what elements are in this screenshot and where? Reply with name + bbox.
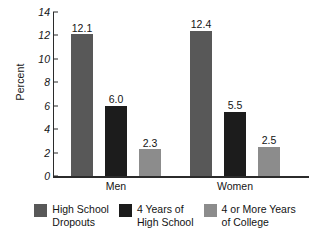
- bar-value-label: 12.4: [191, 19, 211, 30]
- bar: 5.5: [224, 112, 246, 176]
- y-axis-tick-label: 8: [44, 77, 50, 88]
- legend-label: High School Dropouts: [52, 203, 109, 228]
- legend-label: 4 or More Years of College: [222, 203, 296, 228]
- bar: 12.4: [190, 31, 212, 176]
- y-axis-tick-label: 6: [44, 100, 50, 111]
- bars-layer: 12.16.02.312.45.52.5: [53, 0, 309, 177]
- bar-value-label: 12.1: [72, 23, 92, 34]
- legend-swatch-icon: [34, 204, 47, 217]
- legend-swatch-icon: [119, 204, 132, 217]
- bar: 12.1: [71, 34, 93, 176]
- bar-chart: Percent 02468101214 12.16.02.312.45.52.5…: [0, 0, 322, 245]
- legend-swatch-icon: [204, 204, 217, 217]
- legend-label: 4 Years of High School: [137, 203, 194, 228]
- bar: 2.5: [258, 147, 280, 176]
- y-axis-tick-labels: 02468101214: [36, 8, 54, 178]
- x-axis-group-label: Men: [106, 180, 126, 192]
- y-axis-tick-label: 14: [38, 7, 50, 18]
- y-axis-tick-label: 2: [44, 147, 50, 158]
- bar-value-label: 2.5: [262, 135, 277, 146]
- plot-area: Percent 02468101214 12.16.02.312.45.52.5…: [0, 0, 322, 180]
- y-axis-tick-label: 12: [38, 30, 50, 41]
- bar: 6.0: [105, 106, 127, 176]
- y-axis-title: Percent: [14, 34, 26, 130]
- y-axis-tick-label: 4: [44, 124, 50, 135]
- y-axis-tick-label: 10: [38, 54, 50, 65]
- legend-item[interactable]: High School Dropouts: [34, 203, 109, 243]
- bar-value-label: 2.3: [143, 138, 158, 149]
- y-axis-tick-label: 0: [44, 171, 50, 182]
- bar: 2.3: [139, 149, 161, 176]
- legend-item[interactable]: 4 or More Years of College: [204, 203, 296, 243]
- x-axis-group-label: Women: [217, 180, 253, 192]
- bar-value-label: 6.0: [109, 94, 124, 105]
- legend-item[interactable]: 4 Years of High School: [119, 203, 194, 243]
- chart-legend: High School Dropouts4 Years of High Scho…: [0, 203, 322, 243]
- bar-value-label: 5.5: [228, 100, 243, 111]
